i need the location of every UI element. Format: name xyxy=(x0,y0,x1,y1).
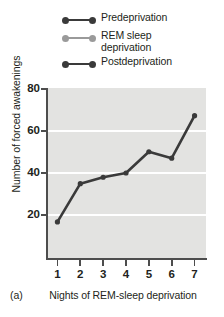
data-point xyxy=(101,175,106,180)
x-tick-mark-3 xyxy=(102,260,104,266)
x-tick-label-3: 3 xyxy=(95,268,111,280)
plot-area xyxy=(46,88,206,258)
data-series-layer xyxy=(46,88,206,258)
data-point xyxy=(78,181,83,186)
series-line-rem-sleep-deprivation xyxy=(57,116,194,222)
x-tick-mark-2 xyxy=(79,260,81,266)
data-point xyxy=(192,113,197,118)
x-axis-title: Nights of REM-sleep deprivation xyxy=(0,289,224,301)
data-point xyxy=(123,170,128,175)
x-tick-mark-7 xyxy=(194,260,196,266)
y-tick-label-60: 60 xyxy=(16,125,40,136)
x-tick-label-6: 6 xyxy=(164,268,180,280)
data-point xyxy=(169,156,174,161)
y-tick-label-40: 40 xyxy=(16,167,40,178)
x-tick-mark-1 xyxy=(57,260,59,266)
y-tick-mark-80 xyxy=(41,88,47,90)
x-tick-mark-5 xyxy=(148,260,150,266)
y-tick-mark-20 xyxy=(41,214,47,216)
y-tick-label-20: 20 xyxy=(16,209,40,220)
x-tick-mark-4 xyxy=(125,260,127,266)
y-tick-label-80: 80 xyxy=(16,83,40,94)
y-axis-line xyxy=(46,88,48,260)
y-tick-mark-60 xyxy=(41,130,47,132)
x-tick-label-1: 1 xyxy=(49,268,65,280)
x-tick-label-4: 4 xyxy=(118,268,134,280)
series-points-rem-sleep-deprivation xyxy=(55,113,197,224)
line-chart: Number of forced awakenings 80 60 40 20 … xyxy=(0,0,224,317)
y-tick-mark-40 xyxy=(41,172,47,174)
data-point xyxy=(55,219,60,224)
x-tick-mark-6 xyxy=(171,260,173,266)
x-tick-label-5: 5 xyxy=(141,268,157,280)
data-point xyxy=(146,149,151,154)
x-tick-label-7: 7 xyxy=(187,268,203,280)
y-axis-tick-labels: 80 60 40 20 xyxy=(12,0,40,317)
x-tick-label-2: 2 xyxy=(72,268,88,280)
